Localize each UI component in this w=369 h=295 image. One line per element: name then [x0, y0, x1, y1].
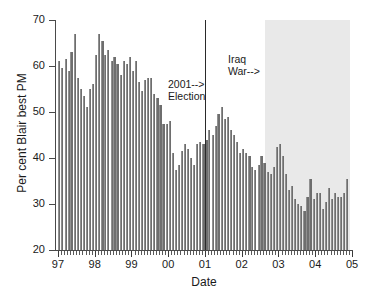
bar	[263, 163, 265, 250]
y-tick	[49, 66, 55, 67]
bar	[199, 142, 201, 250]
bar	[120, 75, 122, 250]
x-tick-major	[352, 251, 353, 257]
x-tick-major	[95, 251, 96, 257]
x-tick-label: 05	[340, 259, 364, 270]
bar	[153, 94, 155, 250]
plot-area	[55, 20, 352, 250]
x-tick-minor	[226, 251, 227, 255]
x-tick-minor	[334, 251, 335, 255]
x-tick-label: 99	[119, 259, 143, 270]
bar	[162, 124, 164, 251]
x-tick-minor	[122, 251, 123, 255]
bar	[166, 124, 168, 251]
x-tick-minor	[340, 251, 341, 255]
x-tick-minor	[177, 251, 178, 255]
x-tick-minor	[159, 251, 160, 255]
x-tick-minor	[312, 251, 313, 255]
x-tick-minor	[251, 251, 252, 255]
bar	[300, 206, 302, 250]
bar	[169, 121, 171, 250]
bar	[111, 61, 113, 250]
bar	[187, 149, 189, 250]
x-tick-minor	[67, 251, 68, 255]
x-tick-minor	[73, 251, 74, 255]
bar	[254, 170, 256, 251]
x-tick-minor	[337, 251, 338, 255]
x-tick-minor	[297, 251, 298, 255]
bar	[294, 199, 296, 250]
bar	[291, 186, 293, 250]
bar	[217, 114, 219, 250]
annotation-line: 2001-->	[168, 78, 205, 90]
x-tick-major	[315, 251, 316, 257]
bar	[270, 174, 272, 250]
bar	[80, 89, 82, 250]
bar	[236, 142, 238, 250]
bar	[285, 174, 287, 250]
x-tick-minor	[331, 251, 332, 255]
x-tick-minor	[211, 251, 212, 255]
x-tick-label: 02	[230, 259, 254, 270]
bar	[181, 151, 183, 250]
x-tick-minor	[174, 251, 175, 255]
bar	[215, 126, 217, 250]
x-tick-minor	[165, 251, 166, 255]
x-tick-minor	[248, 251, 249, 255]
x-tick-major	[58, 251, 59, 257]
bar	[319, 193, 321, 251]
x-tick-minor	[138, 251, 139, 255]
annotation-line: War-->	[228, 65, 260, 77]
bar	[279, 144, 281, 250]
bar	[178, 165, 180, 250]
bar	[86, 107, 88, 250]
x-tick-minor	[156, 251, 157, 255]
y-tick	[49, 20, 55, 21]
bar	[306, 197, 308, 250]
x-tick-minor	[82, 251, 83, 255]
x-tick-minor	[208, 251, 209, 255]
bar	[116, 64, 118, 250]
bar	[104, 55, 106, 251]
y-tick	[49, 204, 55, 205]
bar	[260, 156, 262, 250]
x-tick-minor	[162, 251, 163, 255]
bar	[193, 165, 195, 250]
bar	[92, 84, 94, 250]
x-tick-minor	[282, 251, 283, 255]
x-tick-minor	[275, 251, 276, 255]
x-tick-label: 03	[266, 259, 290, 270]
bar	[141, 91, 143, 250]
bar	[147, 78, 149, 251]
x-tick-major	[131, 251, 132, 257]
x-tick-minor	[110, 251, 111, 255]
x-tick-minor	[306, 251, 307, 255]
y-tick	[49, 158, 55, 159]
x-tick-minor	[285, 251, 286, 255]
x-tick-minor	[343, 251, 344, 255]
bar	[65, 59, 67, 250]
bar	[132, 71, 134, 250]
bar	[74, 34, 76, 250]
bar	[126, 64, 128, 250]
x-tick-major	[205, 251, 206, 257]
x-tick-label: 97	[46, 259, 70, 270]
bar	[276, 147, 278, 251]
annotation-election-2001: 2001-->Election	[168, 78, 205, 102]
bar	[331, 199, 333, 250]
x-tick-minor	[321, 251, 322, 255]
bar	[89, 89, 91, 250]
x-tick-minor	[141, 251, 142, 255]
annotation-iraq-war: IraqWar-->	[228, 53, 260, 77]
x-tick-minor	[89, 251, 90, 255]
bar	[208, 130, 210, 250]
x-tick-minor	[269, 251, 270, 255]
x-tick-minor	[349, 251, 350, 255]
bar	[83, 96, 85, 250]
bar	[346, 179, 348, 250]
y-tick-label: 20	[21, 244, 45, 255]
y-tick-label: 50	[21, 106, 45, 117]
y-tick-label: 70	[21, 14, 45, 25]
x-tick-minor	[128, 251, 129, 255]
x-tick-minor	[229, 251, 230, 255]
